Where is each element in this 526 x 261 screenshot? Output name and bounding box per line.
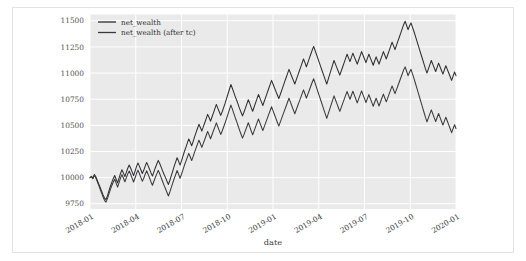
screenshot-root: 975010000102501050010750110001125011500 … — [0, 0, 526, 261]
x-tick-label: 2019-07 — [338, 212, 369, 235]
x-tick-label: 2019-10 — [384, 212, 415, 235]
x-axis-tick-labels: 2018-012018-042018-072018-102019-012019-… — [64, 212, 461, 235]
x-tick-label: 2018-07 — [155, 212, 186, 235]
legend-label: net_wealth — [121, 18, 161, 27]
y-tick-label: 10000 — [60, 173, 84, 182]
y-tick-label: 10500 — [60, 121, 84, 130]
x-tick-label: 2019-04 — [293, 212, 324, 235]
chart-container: 975010000102501050010750110001125011500 … — [0, 0, 526, 261]
y-tick-label: 9750 — [65, 199, 84, 208]
x-tick-label: 2018-01 — [64, 212, 95, 235]
y-axis-tick-labels: 975010000102501050010750110001125011500 — [60, 16, 84, 208]
x-tick-label: 2020-01 — [430, 212, 461, 235]
x-tick-label: 2018-04 — [110, 212, 141, 235]
x-tick-label: 2018-10 — [201, 212, 232, 235]
y-tick-label: 10250 — [60, 147, 84, 156]
y-tick-label: 11250 — [60, 43, 84, 52]
y-tick-label: 11500 — [60, 16, 84, 25]
y-tick-label: 10750 — [60, 95, 84, 104]
legend-label: net_wealth (after tc) — [121, 28, 196, 37]
line-chart: 975010000102501050010750110001125011500 … — [0, 0, 526, 261]
x-axis-title: date — [264, 237, 282, 247]
x-tick-label: 2019-01 — [247, 212, 278, 235]
y-tick-label: 11000 — [60, 69, 84, 78]
